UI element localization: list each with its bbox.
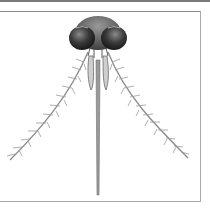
right-palp [103,56,108,90]
right-eye [101,26,127,50]
right-antenna [108,52,189,158]
mosquito-illustration [0,0,210,209]
left-eye [69,26,95,50]
left-antenna [7,52,88,160]
left-palp [88,56,94,90]
proboscis [96,60,100,195]
